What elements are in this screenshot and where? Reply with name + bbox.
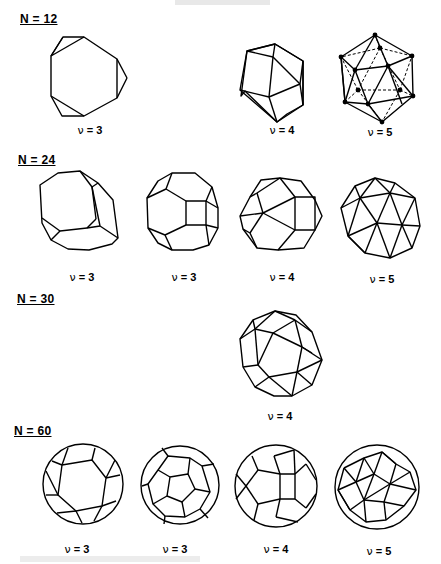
nu-label-n24-2: ν = 3 xyxy=(172,271,197,284)
nu-label-n24-3: ν = 4 xyxy=(270,271,295,284)
nu-label-n30-1: ν = 4 xyxy=(268,410,293,423)
rhombicosidodecahedron-drawing xyxy=(234,444,318,528)
nu-label-n12-3: ν = 5 xyxy=(368,126,393,139)
group-label-n60: N = 60 xyxy=(14,424,52,438)
nu-label-n60-4: ν = 5 xyxy=(367,545,392,558)
snub-cube-drawing xyxy=(340,178,424,258)
icosahedron-drawing xyxy=(335,30,425,126)
nu-label-n24-4: ν = 5 xyxy=(370,273,395,286)
nu-label-n60-3: ν = 4 xyxy=(264,543,289,556)
rhombicuboctahedron-drawing xyxy=(240,178,326,258)
truncated-tetrahedron-drawing xyxy=(40,30,140,120)
page-header-clipped xyxy=(175,0,270,5)
cuboctahedron-n12-drawing xyxy=(237,36,327,126)
truncated-octahedron-front-drawing xyxy=(146,172,226,252)
nu-label-n12-1: ν = 3 xyxy=(78,124,103,137)
nu-label-n60-2: ν = 3 xyxy=(163,543,188,556)
group-label-n30: N = 30 xyxy=(17,292,55,306)
nu-label-n12-2: ν = 4 xyxy=(270,124,295,137)
snub-dodecahedron-drawing xyxy=(334,444,420,530)
group-label-n24: N = 24 xyxy=(18,153,56,167)
nu-label-n24-1: ν = 3 xyxy=(70,271,95,284)
truncated-icosahedron-drawing xyxy=(140,444,220,526)
group-label-n12: N = 12 xyxy=(20,12,58,26)
nu-label-n60-1: ν = 3 xyxy=(65,543,90,556)
truncated-dodecahedron-drawing xyxy=(42,443,124,525)
truncated-octahedron-oblique-drawing xyxy=(40,170,130,250)
figure-caption-clipped xyxy=(20,556,200,562)
icosidodecahedron-drawing xyxy=(240,311,324,397)
